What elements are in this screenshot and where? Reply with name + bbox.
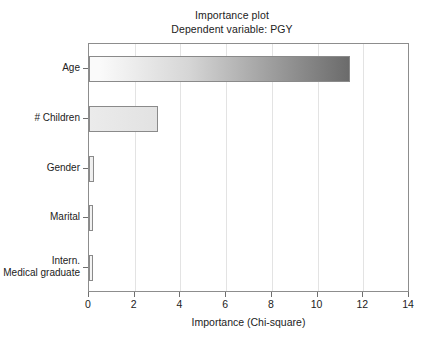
- x-tick-label-12: 12: [347, 298, 377, 311]
- x-tick-0: [88, 292, 89, 297]
- y-tick-2: [83, 168, 88, 169]
- x-tick-4: [179, 292, 180, 297]
- chart-title-block: Importance plot Dependent variable: PGY: [0, 8, 428, 36]
- x-tick-14: [408, 292, 409, 297]
- bar-children[interactable]: [89, 106, 158, 132]
- y-tick-0: [83, 68, 88, 69]
- x-tick-label-0: 0: [73, 298, 103, 311]
- y-axis-label-4: Intern. Medical graduate: [0, 255, 80, 279]
- x-tick-2: [134, 292, 135, 297]
- x-tick-label-6: 6: [210, 298, 240, 311]
- bar-gender[interactable]: [89, 156, 94, 182]
- y-tick-3: [83, 217, 88, 218]
- bar-intern-medical-graduate[interactable]: [89, 255, 93, 281]
- x-tick-8: [271, 292, 272, 297]
- bar-marital[interactable]: [89, 205, 93, 231]
- x-tick-6: [225, 292, 226, 297]
- y-axis-label-3: Marital: [0, 211, 80, 223]
- x-tick-12: [362, 292, 363, 297]
- x-tick-10: [317, 292, 318, 297]
- x-tick-label-8: 8: [256, 298, 286, 311]
- x-tick-label-4: 4: [164, 298, 194, 311]
- y-axis-label-0: Age: [0, 62, 80, 74]
- y-axis-label-1: # Children: [0, 112, 80, 124]
- y-tick-4: [83, 267, 88, 268]
- x-axis-title: Importance (Chi-square): [88, 316, 409, 328]
- y-axis-label-2: Gender: [0, 162, 80, 174]
- gridline-x-12: [363, 44, 364, 291]
- plot-area: [88, 43, 409, 292]
- x-tick-label-14: 14: [393, 298, 423, 311]
- chart-title: Importance plot: [36, 8, 428, 22]
- y-tick-1: [83, 118, 88, 119]
- x-tick-label-2: 2: [119, 298, 149, 311]
- chart-canvas: Importance plot Dependent variable: PGY …: [0, 0, 428, 340]
- x-tick-label-10: 10: [302, 298, 332, 311]
- chart-subtitle: Dependent variable: PGY: [36, 22, 428, 36]
- bar-age[interactable]: [89, 56, 350, 82]
